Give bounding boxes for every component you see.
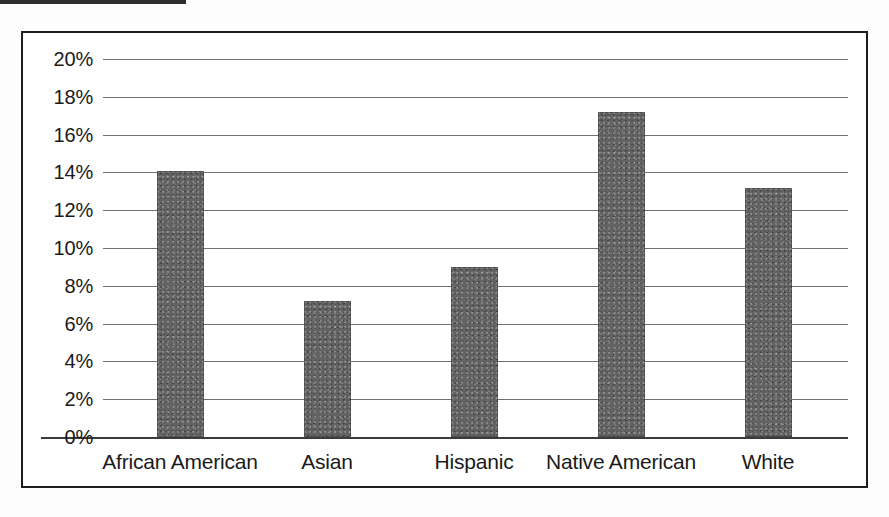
y-tick-label-20: 20% xyxy=(23,49,93,69)
y-tick-label-14: 14% xyxy=(23,162,93,182)
y-tick-label-2: 2% xyxy=(23,389,93,409)
chart-frame: 20%18%16%14%12%10%8%6%4%2%0% African Ame… xyxy=(21,31,868,488)
x-label-native-american: Native American xyxy=(546,451,696,472)
y-tick-label-10: 10% xyxy=(23,238,93,258)
gridline-12 xyxy=(103,210,848,211)
x-label-hispanic: Hispanic xyxy=(435,451,514,472)
x-label-african-american: African American xyxy=(102,451,258,472)
gridline-16 xyxy=(103,135,848,136)
bar-asian xyxy=(304,301,351,437)
gridline-20 xyxy=(103,59,848,60)
bar-african-american xyxy=(157,171,204,437)
y-tick-label-4: 4% xyxy=(23,351,93,371)
y-tick-label-8: 8% xyxy=(23,276,93,296)
gridline-10 xyxy=(103,248,848,249)
y-tick-label-18: 18% xyxy=(23,87,93,107)
gridline-14 xyxy=(103,172,848,173)
axis-baseline xyxy=(41,437,848,439)
bar-hispanic xyxy=(451,267,498,437)
bar-native-american xyxy=(598,112,645,437)
bar-white xyxy=(745,188,792,437)
gridline-18 xyxy=(103,97,848,98)
page-background: 20%18%16%14%12%10%8%6%4%2%0% African Ame… xyxy=(0,0,889,517)
y-tick-label-16: 16% xyxy=(23,125,93,145)
y-tick-label-12: 12% xyxy=(23,200,93,220)
y-tick-label-6: 6% xyxy=(23,314,93,334)
plot-area: 20%18%16%14%12%10%8%6%4%2%0% African Ame… xyxy=(23,33,866,486)
x-label-asian: Asian xyxy=(301,451,353,472)
x-label-white: White xyxy=(742,451,795,472)
y-tick-label-0: 0% xyxy=(23,427,93,447)
top-cutoff-rule xyxy=(0,0,186,4)
